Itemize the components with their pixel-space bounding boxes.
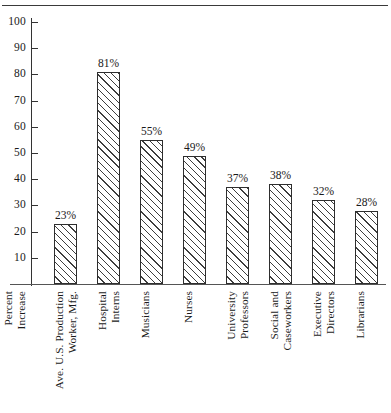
category-label-line-2: Directors [324,291,337,334]
top-divider-rule [2,5,388,6]
category-label-line-2: Worker, Mfg. [66,291,79,353]
bar [97,72,120,284]
y-tick-label-text: 100 [2,16,26,28]
y-tick-label-text: 70 [2,95,26,107]
y-tick-label-text: 30 [2,199,26,211]
category-label: HospitalInterns [96,291,133,409]
y-axis-title: Percent Increase [2,291,27,409]
bar [226,187,249,284]
category-label: Nurses [182,291,219,409]
y-tick-30 [31,205,38,206]
y-tick-label-text: 50 [2,147,26,159]
y-tick-label-text: 90 [2,42,26,54]
y-tick-80 [31,74,38,75]
y-tick-label-90: 90 [0,42,26,54]
y-axis-title-line-1: Percent [2,291,15,326]
category-label-line-1: University [225,291,238,340]
y-tick-label-text: 60 [2,121,26,133]
category-label: UniversityProfessors [225,291,262,409]
y-tick-label-80: 80 [0,68,26,80]
category-label-line-1: Librarians [354,291,367,338]
y-tick-label-40: 40 [0,173,26,185]
bar [269,184,292,284]
bar-value-label: 32% [303,185,344,197]
category-label: Musicians [139,291,176,409]
bar-value-label: 38% [260,169,301,181]
bar-chart: 102030405060708090100 23%81%55%49%37%38%… [0,0,391,413]
x-axis-baseline [10,284,386,285]
y-tick-label-text: 10 [2,252,26,264]
category-label-line-2: Interns [109,291,122,323]
bar-value-label: 28% [346,196,387,208]
y-tick-label-30: 30 [0,199,26,211]
y-tick-label-60: 60 [0,121,26,133]
bar-value-label: 23% [45,209,86,221]
y-tick-label-20: 20 [0,226,26,238]
y-tick-70 [31,101,38,102]
category-label-line-1: Nurses [182,291,195,323]
category-label: Social andCaseworkers [268,291,305,409]
category-label: Librarians [354,291,391,409]
y-tick-label-70: 70 [0,95,26,107]
bar-value-label: 55% [131,125,172,137]
y-axis-line [31,18,32,286]
category-label-line-2: Caseworkers [281,291,294,350]
bar-value-label: 49% [174,141,215,153]
y-tick-20 [31,232,38,233]
bar-value-label: 37% [217,172,258,184]
category-label: Ave. U.S. ProductionWorker, Mfg. [53,291,90,409]
category-label-line-1: Musicians [139,291,152,338]
y-tick-label-text: 40 [2,173,26,185]
bar [54,224,77,284]
category-label: ExecutiveDirectors [311,291,348,409]
bar [355,211,378,284]
category-label-line-2: Professors [238,291,251,339]
y-tick-40 [31,179,38,180]
bar [312,200,335,284]
y-tick-label-text: 80 [2,68,26,80]
y-tick-label-10: 10 [0,252,26,264]
bar-value-label: 81% [88,57,129,69]
y-tick-label-text: 20 [2,226,26,238]
y-tick-60 [31,127,38,128]
category-label-line-1: Executive [311,291,324,337]
y-tick-label-50: 50 [0,147,26,159]
y-tick-50 [31,153,38,154]
category-label-line-1: Social and [268,291,281,339]
bar [140,140,163,284]
y-axis-title-line-2: Increase [15,291,28,329]
category-label-line-1: Ave. U.S. Production [53,291,66,389]
bar [183,156,206,284]
y-tick-label-100: 100 [0,16,26,28]
y-tick-100 [31,22,38,23]
y-tick-90 [31,48,38,49]
y-tick-10 [31,258,38,259]
category-label-line-1: Hospital [96,291,109,330]
